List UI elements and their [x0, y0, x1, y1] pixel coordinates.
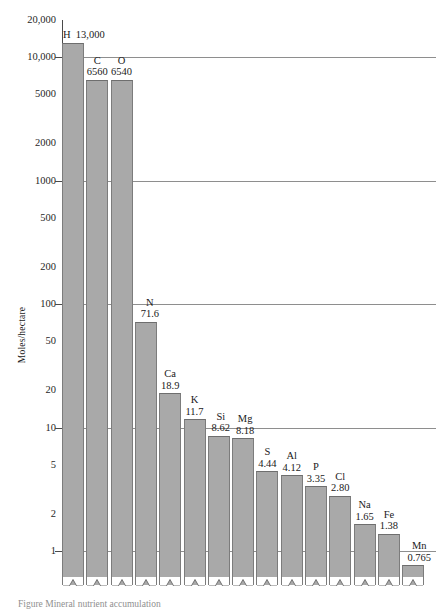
axis-break-notch — [257, 577, 277, 586]
axis-break-notch — [63, 577, 83, 586]
y-axis-tick-label: 500 — [8, 213, 56, 223]
plot-area: H 13,000C6560O6540N71.6Ca18.9K11.7Si8.62… — [62, 0, 436, 607]
bar-label-h: H 13,000 — [63, 29, 105, 41]
y-axis-tick-label: 1000 — [8, 176, 56, 186]
bar-si — [208, 436, 230, 585]
element-value: 13,000 — [76, 29, 105, 40]
y-axis-tick-mark — [55, 304, 62, 305]
y-axis-tick-label: 10 — [8, 423, 56, 433]
axis-break-notch — [233, 577, 253, 586]
y-axis-tick-mark — [55, 551, 62, 552]
element-symbol: Al — [264, 450, 320, 462]
y-axis-tick-label: 20 — [8, 385, 56, 395]
y-axis-tick-label: 5 — [8, 460, 56, 470]
bar-label-cl: Cl2.80 — [312, 471, 368, 494]
bar-p — [305, 486, 327, 585]
figure-caption: Figure Mineral nutrient accumulation — [18, 599, 161, 609]
y-axis-tick-label: 20,000 — [8, 15, 56, 25]
element-value: 8.18 — [217, 425, 273, 437]
bar-o — [111, 80, 133, 585]
bar-mn — [402, 565, 424, 585]
bar-s — [256, 471, 278, 585]
y-axis-tick-labels: 20,00010,0005000200010005002001005020105… — [0, 0, 56, 607]
axis-break-notch — [209, 577, 229, 586]
element-symbol: Ca — [142, 368, 198, 380]
y-axis-tick-label: 2000 — [8, 138, 56, 148]
axis-break-notch — [160, 577, 180, 586]
bar-al — [281, 475, 303, 585]
element-symbol: Fe — [361, 509, 417, 521]
y-axis-tick-label: 50 — [8, 336, 56, 346]
bar-n — [135, 322, 157, 585]
element-symbol: Mn — [391, 540, 436, 552]
element-value: 18.9 — [142, 380, 198, 392]
bar-h — [62, 43, 84, 585]
element-value: 2.80 — [312, 482, 368, 494]
y-axis-title: Moles/hectare — [17, 280, 27, 390]
bar-k — [184, 419, 206, 585]
element-symbol: Mg — [217, 413, 273, 425]
axis-break-notch — [87, 577, 107, 586]
bar-label-ca: Ca18.9 — [142, 368, 198, 391]
bar-label-mn: Mn0.765 — [391, 540, 436, 563]
y-axis-tick-label: 2 — [8, 509, 56, 519]
y-axis-tick-label: 100 — [8, 299, 56, 309]
element-symbol: Cl — [312, 471, 368, 483]
bar-na — [354, 524, 376, 585]
y-axis-tick-label: 1 — [8, 546, 56, 556]
axis-break-notch — [379, 577, 399, 586]
bar-ca — [159, 393, 181, 585]
element-symbol: H — [63, 29, 71, 40]
element-symbol: K — [167, 394, 223, 406]
element-value: 0.765 — [391, 552, 436, 564]
y-axis-tick-label: 200 — [8, 262, 56, 272]
element-value: 71.6 — [122, 308, 178, 320]
axis-break-notch — [185, 577, 205, 586]
element-value: 6540 — [94, 66, 150, 78]
y-axis-tick-label: 5000 — [8, 89, 56, 99]
y-axis-tick-mark — [55, 428, 62, 429]
y-axis-tick-mark — [55, 57, 62, 58]
axis-break-notch — [355, 577, 375, 586]
axis-break-notch — [112, 577, 132, 586]
axis-break-notch — [306, 577, 326, 586]
bar-label-fe: Fe1.38 — [361, 509, 417, 532]
bar-c — [86, 80, 108, 585]
axis-break-notch — [403, 577, 423, 586]
axis-break-notch — [136, 577, 156, 586]
element-symbol: N — [122, 297, 178, 309]
y-axis-tick-label: 10,000 — [8, 52, 56, 62]
bar-label-o: O6540 — [94, 55, 150, 78]
y-axis-tick-mark — [55, 181, 62, 182]
element-value: 1.38 — [361, 520, 417, 532]
bar-label-n: N71.6 — [122, 297, 178, 320]
element-symbol: O — [94, 55, 150, 67]
axis-break-notch — [282, 577, 302, 586]
axis-break-notch — [330, 577, 350, 586]
bar-label-mg: Mg8.18 — [217, 413, 273, 436]
